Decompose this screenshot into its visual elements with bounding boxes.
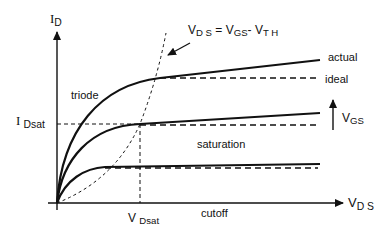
curve-low-vgs xyxy=(57,164,320,203)
eq-sub1: D S xyxy=(196,27,212,38)
cutoff-label: cutoff xyxy=(201,208,228,219)
y-axis-label: ID xyxy=(50,12,62,28)
actual-label: actual xyxy=(328,52,357,63)
y-axis-label-sub: D xyxy=(54,17,62,28)
eq-sub3: T H xyxy=(263,27,278,38)
idsat-label-sub: Dsat xyxy=(24,119,45,130)
triode-label: triode xyxy=(71,90,99,101)
ideal-label: ideal xyxy=(325,74,348,85)
saturation-boundary-curve xyxy=(57,33,166,203)
eq-equals: = xyxy=(212,23,226,37)
curve-high-vgs xyxy=(57,60,320,203)
idsat-label: I Dsat xyxy=(16,114,45,130)
vgs-label: VGS xyxy=(342,112,364,126)
eq-v1: V xyxy=(188,23,196,37)
eq-minus: - xyxy=(248,23,255,37)
equation-pointer-arrow xyxy=(168,43,190,55)
x-axis-label: VD S xyxy=(348,196,374,212)
eq-sub2: GS xyxy=(234,27,248,38)
eq-v2: V xyxy=(226,23,234,37)
x-axis-label-main: V xyxy=(348,195,357,210)
vdsat-label-sub: Dsat xyxy=(139,215,159,226)
mosfet-iv-diagram: ID VD S VD S = VGS- VT H actual ideal tr… xyxy=(0,0,380,235)
curve-mid-vgs xyxy=(57,113,320,203)
vgs-label-main: V xyxy=(342,111,350,125)
vdsat-label: V Dsat xyxy=(128,212,159,226)
saturation-equation: VD S = VGS- VT H xyxy=(188,24,278,38)
vgs-label-sub: GS xyxy=(350,115,364,126)
eq-v3: V xyxy=(255,23,263,37)
saturation-label: saturation xyxy=(197,139,245,150)
idsat-label-main: I xyxy=(16,113,20,128)
x-axis-label-sub: D S xyxy=(357,201,374,212)
vdsat-label-main: V xyxy=(128,211,136,225)
